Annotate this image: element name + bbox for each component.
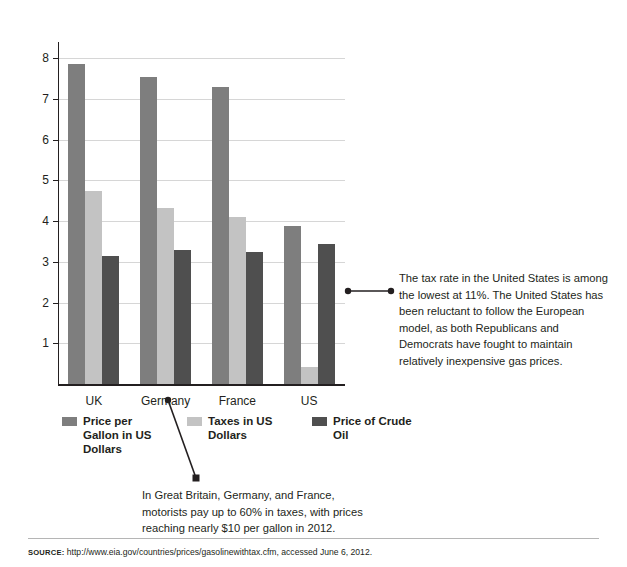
x-axis-label-uk: UK bbox=[58, 394, 130, 408]
x-axis-label-france: France bbox=[202, 394, 274, 408]
legend-item[interactable]: Price of Crude Oil bbox=[312, 414, 437, 456]
y-axis-tick bbox=[53, 303, 58, 304]
leader-square-bottom-end bbox=[193, 475, 200, 482]
y-axis-line bbox=[58, 42, 59, 385]
bar-group-france bbox=[212, 42, 263, 384]
y-axis-tick bbox=[53, 58, 58, 59]
chart-page: 12345678 UKGermanyFranceUS Price per Gal… bbox=[0, 0, 627, 567]
source-label: SOURCE: bbox=[28, 548, 64, 557]
x-axis-label-us: US bbox=[273, 394, 345, 408]
bar bbox=[68, 64, 85, 384]
y-axis-label: 8 bbox=[42, 51, 49, 65]
y-axis-label: 7 bbox=[42, 92, 49, 106]
plot-area: 12345678 UKGermanyFranceUS bbox=[58, 42, 345, 385]
leader-dot-right-end bbox=[388, 288, 394, 294]
y-axis-label: 6 bbox=[42, 133, 49, 147]
bar bbox=[157, 208, 174, 384]
leader-dot-right-start bbox=[345, 288, 351, 294]
y-axis-label: 1 bbox=[42, 336, 49, 350]
annotation-bottom-text: In Great Britain, Germany, and France, m… bbox=[142, 487, 374, 537]
bar bbox=[85, 191, 102, 384]
bar bbox=[212, 87, 229, 384]
y-axis-tick bbox=[53, 343, 58, 344]
bar bbox=[284, 226, 301, 384]
y-axis-tick bbox=[53, 99, 58, 100]
bar bbox=[301, 367, 318, 385]
legend-swatch-icon bbox=[187, 417, 202, 426]
x-axis-label-germany: Germany bbox=[130, 394, 202, 408]
legend-swatch-icon bbox=[312, 417, 327, 426]
bar bbox=[140, 77, 157, 384]
legend-label: Price of Crude Oil bbox=[333, 414, 419, 442]
y-axis-label: 2 bbox=[42, 296, 49, 310]
y-axis-label: 4 bbox=[42, 214, 49, 228]
x-axis-line bbox=[58, 384, 345, 386]
y-axis-tick bbox=[53, 140, 58, 141]
bar bbox=[318, 244, 335, 384]
chart-legend: Price per Gallon in US DollarsTaxes in U… bbox=[62, 414, 437, 456]
bar-group-us bbox=[284, 42, 335, 384]
legend-label: Price per Gallon in US Dollars bbox=[83, 414, 169, 456]
legend-item[interactable]: Price per Gallon in US Dollars bbox=[62, 414, 187, 456]
bar bbox=[174, 250, 191, 384]
legend-item[interactable]: Taxes in US Dollars bbox=[187, 414, 312, 456]
legend-swatch-icon bbox=[62, 417, 77, 426]
y-axis-tick bbox=[53, 221, 58, 222]
bar bbox=[246, 252, 263, 384]
y-axis-label: 5 bbox=[42, 173, 49, 187]
source-text: http://www.eia.gov/countries/prices/gaso… bbox=[67, 547, 372, 557]
legend-label: Taxes in US Dollars bbox=[208, 414, 294, 442]
y-axis-tick bbox=[53, 262, 58, 263]
annotation-right-text: The tax rate in the United States is amo… bbox=[399, 270, 611, 369]
y-axis-label: 3 bbox=[42, 255, 49, 269]
y-axis-tick bbox=[53, 180, 58, 181]
bar-group-germany bbox=[140, 42, 191, 384]
bar bbox=[102, 256, 119, 384]
bar bbox=[229, 217, 246, 384]
source-line: SOURCE: http://www.eia.gov/countries/pri… bbox=[28, 546, 372, 559]
source-divider bbox=[28, 538, 599, 539]
bar-group-uk bbox=[68, 42, 119, 384]
